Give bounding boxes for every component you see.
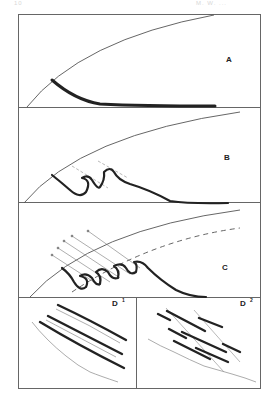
panel-label-d2: D xyxy=(240,299,246,308)
dark-layers xyxy=(40,305,126,368)
panel-d1: D 1 xyxy=(32,297,126,382)
tight-folded-layer xyxy=(62,262,206,297)
panel-d2: D 2 xyxy=(148,297,256,382)
figure-diagram: A B C xyxy=(0,0,276,410)
panel-label-c: C xyxy=(222,263,228,272)
wavy-base xyxy=(148,339,256,382)
surface-curve xyxy=(27,15,214,107)
panel-label-d1-sup: 1 xyxy=(122,297,125,303)
panel-label-a: A xyxy=(226,55,232,64)
surface-curve xyxy=(30,210,240,297)
panel-label-d1: D xyxy=(112,299,118,308)
panel-b: B xyxy=(24,112,240,203)
panel-label-d2-sup: 2 xyxy=(250,297,253,303)
surface-curve xyxy=(24,112,240,203)
dark-layer xyxy=(52,80,215,106)
panel-a: A xyxy=(27,15,232,107)
panel-label-b: B xyxy=(224,153,230,162)
folded-layer xyxy=(52,169,228,203)
figure-frame xyxy=(19,15,261,389)
panel-c: C xyxy=(30,210,240,297)
offset-layer-segments xyxy=(158,311,240,362)
